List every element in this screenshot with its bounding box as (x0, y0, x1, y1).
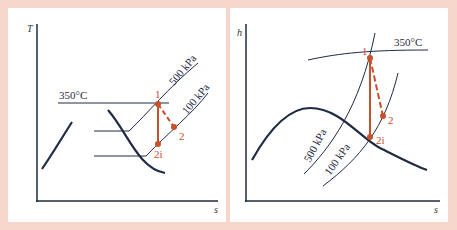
state-2-label: 2 (388, 114, 394, 126)
state-2i-point (367, 134, 373, 140)
t-axis-label: T (27, 23, 34, 34)
state-2-point (171, 124, 177, 130)
actual-process-line (158, 104, 174, 127)
state-2-point (380, 113, 386, 119)
h-axis-label: h (237, 27, 242, 38)
s-axis-label: s (434, 204, 438, 215)
state-1-label: 1 (362, 45, 368, 57)
state-2-label: 2 (179, 130, 185, 142)
isotherm-label: 350°C (59, 89, 87, 101)
hs-diagram: h s 350°C 500 kPa 100 kPa 1 2 2i (230, 8, 448, 222)
isobar-500-kpa (129, 63, 198, 131)
isobar-500-label: 500 kPa (166, 52, 198, 87)
state-1-point (367, 55, 373, 61)
state-2i-point (155, 141, 161, 147)
ts-diagram: T s 350°C 500 kPa 100 kPa 1 2 2i (8, 8, 226, 222)
hs-diagram-panel: h s 350°C 500 kPa 100 kPa 1 2 2i (230, 8, 448, 222)
state-2i-label: 2i (154, 148, 163, 160)
actual-process-line (370, 58, 383, 116)
saturated-liquid-line (42, 122, 72, 169)
isotherm-label: 350°C (394, 36, 422, 48)
state-1-point (155, 101, 161, 107)
isobar-100-label: 100 kPa (179, 81, 211, 116)
ts-diagram-panel: T s 350°C 500 kPa 100 kPa 1 2 2i (8, 8, 226, 222)
isobar-100-label: 100 kPa (322, 141, 352, 177)
isobar-500-label: 500 kPa (301, 127, 328, 164)
state-2i-label: 2i (376, 134, 385, 146)
s-axis-label: s (214, 204, 218, 215)
state-1-label: 1 (155, 88, 161, 100)
